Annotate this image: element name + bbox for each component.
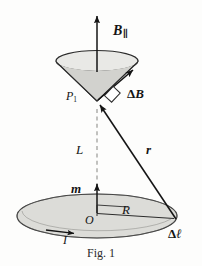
label-point-p1: P1 [66, 90, 77, 103]
label-origin-o: O [85, 214, 94, 226]
label-b-parallel: B∥ [113, 24, 128, 39]
p1-subscript: 1 [73, 95, 77, 104]
label-delta-b: ΔB [127, 87, 144, 100]
figure-1-diagram: B∥ ΔB P1 r L m O R Δℓ I Fig. 1 [0, 0, 202, 266]
label-radius-r: R [122, 203, 130, 216]
figure-caption: Fig. 1 [0, 246, 202, 261]
label-delta-l: Δℓ [168, 227, 182, 240]
label-length-l: L [76, 143, 83, 156]
label-r-vector: r [146, 143, 151, 156]
label-current-i: I [63, 234, 67, 246]
label-moment-m: m [71, 182, 81, 195]
b-parallel-subscript: ∥ [122, 28, 128, 39]
